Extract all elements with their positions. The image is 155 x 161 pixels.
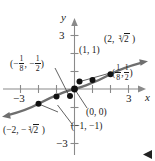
- annotation-point-pos2: (2, 3√2 ): [104, 35, 135, 45]
- data-point-pos1: [90, 77, 96, 83]
- cube-root-radical-positive: 3√2: [117, 35, 130, 45]
- annotation-point-neg1: (−1, −1): [71, 122, 102, 132]
- leader-origin: [76, 91, 88, 109]
- annotation-point-1-1: (1, 1): [79, 46, 100, 56]
- y-tick-label-3: 3: [59, 30, 65, 41]
- y-tick-label-neg3: −3: [56, 138, 68, 149]
- leader-neg1: [58, 105, 73, 124]
- data-point-neg-eighth: [67, 93, 73, 99]
- triangle-marker: [143, 150, 152, 159]
- data-point-neg1: [54, 94, 60, 100]
- annotation-point-neg-eighth: (−18, −12): [10, 55, 44, 72]
- fraction-one-half-positive: 12: [124, 64, 130, 81]
- cube-root-radical-negative: 3√2: [26, 126, 39, 136]
- x-tick-label-3: 3: [126, 93, 132, 104]
- x-axis-label: x: [145, 92, 150, 103]
- cube-root-function-figure: y x 3 −3 −3 3 (−18, −12) (1, 1) (2, 3√2 …: [0, 0, 155, 161]
- fraction-one-half: 12: [35, 55, 41, 72]
- annotation-point-neg2: (−2, −3√2 ): [3, 126, 45, 136]
- y-axis-label: y: [61, 12, 66, 23]
- data-point-pos-eighth: [77, 79, 83, 85]
- fraction-one-eighth: 18: [19, 55, 25, 72]
- annotation-point-pos-eighth: (18,12): [112, 64, 133, 81]
- data-point-neg2: [36, 101, 42, 107]
- annotation-point-origin: (0, 0): [86, 108, 107, 118]
- x-tick-label-neg3: −3: [13, 93, 25, 104]
- data-point-origin: [71, 86, 78, 93]
- leader-neg2: [40, 105, 58, 113]
